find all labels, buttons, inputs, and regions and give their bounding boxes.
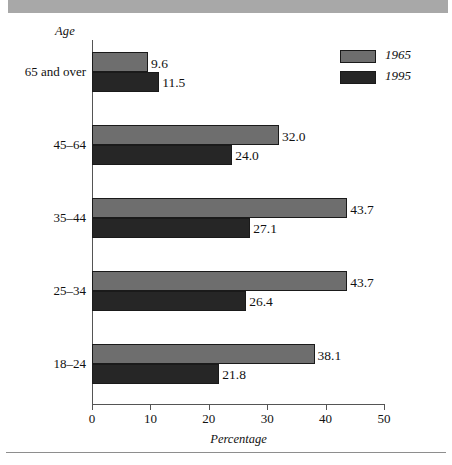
- category-label: 25–34: [54, 283, 87, 299]
- x-tick: [92, 405, 93, 410]
- bar-1965: 43.7: [92, 198, 347, 218]
- x-tick: [209, 405, 210, 410]
- bar-1965: 9.6: [92, 52, 148, 72]
- bar-value-label: 24.0: [235, 148, 259, 164]
- bar-1995: 21.8: [92, 364, 219, 384]
- x-tick: [150, 405, 151, 410]
- bar-1965: 32.0: [92, 125, 279, 145]
- bar-value-label: 38.1: [318, 348, 342, 364]
- x-tick-label: 0: [72, 411, 112, 427]
- bar-1995: 24.0: [92, 145, 232, 165]
- legend-swatch-1995: [340, 71, 376, 84]
- x-tick-label: 40: [306, 411, 346, 427]
- bar-1995: 26.4: [92, 291, 246, 311]
- category-label: 65 and over: [25, 64, 86, 80]
- x-tick: [384, 405, 385, 410]
- legend-swatch-1965: [340, 50, 376, 63]
- bar-1995: 27.1: [92, 218, 250, 238]
- bar-1965: 43.7: [92, 271, 347, 291]
- bar-value-label: 9.6: [151, 56, 168, 72]
- bar-1995: 11.5: [92, 72, 159, 92]
- x-tick-label: 30: [247, 411, 287, 427]
- bar-value-label: 21.8: [222, 367, 246, 383]
- x-axis-title: Percentage: [92, 432, 385, 447]
- category-label: 45–64: [54, 137, 87, 153]
- bar-value-label: 43.7: [350, 202, 374, 218]
- bar-chart-figure: Age 65 and over9.611.545–6432.024.035–44…: [0, 0, 452, 465]
- bar-value-label: 26.4: [249, 294, 273, 310]
- y-axis-title: Age: [55, 24, 75, 39]
- bottom-divider: [6, 452, 446, 453]
- category-label: 18–24: [54, 356, 87, 372]
- category-label: 35–44: [54, 210, 87, 226]
- bar-value-label: 43.7: [350, 275, 374, 291]
- legend-label-1965: 1965: [385, 47, 411, 63]
- bar-value-label: 32.0: [282, 129, 306, 145]
- x-tick: [326, 405, 327, 410]
- x-tick-label: 20: [189, 411, 229, 427]
- x-tick: [267, 405, 268, 410]
- bar-value-label: 11.5: [162, 75, 185, 91]
- x-tick-label: 50: [364, 411, 404, 427]
- bar-1965: 38.1: [92, 344, 315, 364]
- bar-value-label: 27.1: [253, 221, 277, 237]
- legend-label-1995: 1995: [385, 68, 411, 84]
- x-tick-label: 10: [130, 411, 170, 427]
